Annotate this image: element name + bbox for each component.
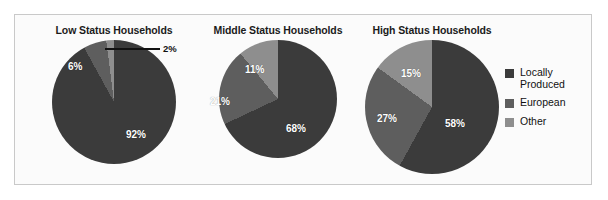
slice-label-low-locally-produced: 92%	[126, 129, 146, 140]
slice-label-low-european: 6%	[68, 61, 82, 72]
slice-label-middle-other: 11%	[245, 64, 264, 75]
pie-title-middle-status: Middle Status Households	[214, 24, 343, 36]
pie-graphic-middle-status	[219, 40, 337, 158]
slice-label-middle-european: 21%	[210, 96, 230, 107]
legend-item-locally-produced: Locally Produced	[505, 67, 566, 90]
pie-title-low-status: Low Status Households	[56, 24, 173, 36]
chart-legend: Locally Produced European Other	[505, 67, 566, 134]
pie-chart-middle-status: Middle Status Households 68% 21% 11%	[183, 24, 373, 176]
legend-label-european: European	[520, 97, 566, 109]
slice-label-middle-locally-produced: 68%	[286, 123, 306, 134]
legend-swatch-other-icon	[505, 118, 514, 127]
legend-item-other: Other	[505, 116, 566, 128]
chart-panel: Low Status Households 92% 6% 2% Middle S…	[14, 14, 592, 185]
legend-label-other: Other	[520, 116, 546, 128]
clipped-header-text	[0, 0, 608, 11]
callout-line-low-other	[105, 48, 160, 50]
pie-title-high-status: High Status Households	[372, 24, 491, 36]
slice-label-low-other: 2%	[163, 43, 177, 54]
pie-graphic-low-status	[52, 40, 176, 164]
legend-item-european: European	[505, 97, 566, 109]
slice-label-high-european: 27%	[377, 113, 397, 124]
chart-figure: Low Status Households 92% 6% 2% Middle S…	[0, 0, 608, 200]
pie-chart-high-status: High Status Households 58% 27% 15%	[352, 24, 512, 176]
legend-swatch-locally-produced-icon	[505, 69, 514, 78]
pie-graphic-high-status	[365, 40, 499, 174]
pie-chart-low-status: Low Status Households 92% 6% 2%	[23, 24, 205, 176]
legend-label-locally-produced: Locally Produced	[520, 67, 565, 90]
legend-swatch-european-icon	[505, 99, 514, 108]
slice-label-high-locally-produced: 58%	[445, 118, 465, 129]
slice-label-high-other: 15%	[401, 68, 421, 79]
